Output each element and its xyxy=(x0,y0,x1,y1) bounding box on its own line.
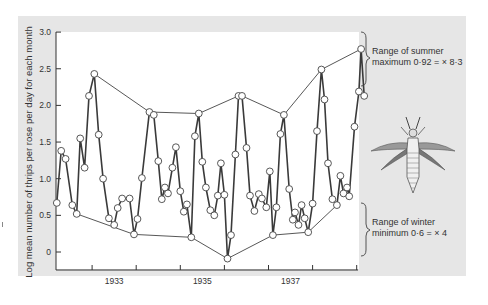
y-tick-label: 1.5 xyxy=(39,137,51,147)
data-point-marker xyxy=(139,175,146,182)
data-point-marker xyxy=(314,128,321,135)
data-point-marker xyxy=(203,184,210,191)
data-point-marker xyxy=(73,211,80,218)
data-point-marker xyxy=(91,71,98,78)
data-point-marker xyxy=(106,215,113,222)
data-point-marker xyxy=(270,232,277,239)
summer-range-annotation: Range of summer maximum 0·92 = × 8·3 xyxy=(372,46,463,68)
data-point-marker xyxy=(114,205,121,212)
data-point-marker xyxy=(158,196,165,203)
data-point-marker xyxy=(165,190,172,197)
data-point-marker xyxy=(150,112,157,119)
data-point-marker xyxy=(305,229,312,236)
data-point-marker xyxy=(346,193,353,200)
plot-area xyxy=(56,32,359,269)
data-point-marker xyxy=(286,186,293,193)
data-point-marker xyxy=(358,46,365,53)
y-tick-label: 2.5 xyxy=(39,64,51,74)
data-point-marker xyxy=(214,192,221,199)
data-point-marker xyxy=(243,145,250,152)
thrips-insect-icon xyxy=(371,117,455,193)
x-tick-label: 1933 xyxy=(105,276,124,286)
data-point-marker xyxy=(247,192,254,199)
data-point-marker xyxy=(251,208,258,215)
data-point-marker xyxy=(173,144,180,151)
data-point-marker xyxy=(169,164,176,171)
data-point-marker xyxy=(273,204,280,211)
winter-bracket-icon xyxy=(361,203,370,256)
data-point-marker xyxy=(298,202,305,209)
data-point-marker xyxy=(266,168,273,175)
data-point-marker xyxy=(292,209,299,216)
data-point-marker xyxy=(69,202,76,209)
data-point-marker xyxy=(325,160,332,167)
y-axis-label: Log mean number of thrips per rose per d… xyxy=(23,26,34,277)
y-tick-label: 1.0 xyxy=(39,174,51,184)
data-point-marker xyxy=(239,93,246,100)
x-tick-label: 1937 xyxy=(281,276,300,286)
y-tick-label: 0.5 xyxy=(39,210,51,220)
winter-annotation-line1: Range of winter xyxy=(372,217,447,228)
data-point-marker xyxy=(58,147,65,154)
data-point-marker xyxy=(111,222,118,229)
data-point-marker xyxy=(180,208,187,215)
data-point-marker xyxy=(321,96,328,103)
data-point-marker xyxy=(126,195,133,202)
data-point-marker xyxy=(228,232,235,239)
data-point-marker xyxy=(62,156,69,163)
data-point-marker xyxy=(184,201,191,208)
data-point-marker xyxy=(53,200,60,207)
data-point-marker xyxy=(199,158,206,165)
data-point-marker xyxy=(295,222,302,229)
data-point-marker xyxy=(301,215,308,222)
data-point-marker xyxy=(134,216,141,223)
x-tick-label: 1935 xyxy=(193,276,212,286)
y-tick-label: 0 xyxy=(46,247,51,257)
data-point-marker xyxy=(351,123,358,130)
data-point-marker xyxy=(177,188,184,195)
margin-mark xyxy=(2,222,3,227)
data-point-marker xyxy=(334,202,341,209)
data-point-marker xyxy=(329,196,336,203)
data-point-marker xyxy=(361,93,368,100)
data-point-marker xyxy=(337,172,344,179)
data-point-marker xyxy=(155,158,162,165)
data-point-marker xyxy=(277,131,284,138)
data-point-marker xyxy=(86,93,93,100)
winter-range-annotation: Range of winter minimum 0·6 = × 4 xyxy=(372,217,447,239)
data-point-marker xyxy=(119,195,126,202)
data-point-marker xyxy=(232,151,239,158)
data-point-marker xyxy=(218,160,225,167)
data-point-marker xyxy=(318,66,325,73)
data-point-marker xyxy=(188,234,195,241)
y-tick-label: 3.0 xyxy=(39,27,51,37)
data-point-marker xyxy=(281,112,288,119)
data-point-marker xyxy=(81,164,88,171)
data-point-marker xyxy=(192,133,199,140)
y-tick-label: 2.0 xyxy=(39,100,51,110)
winter-annotation-line2: minimum 0·6 = × 4 xyxy=(372,228,447,239)
data-point-marker xyxy=(224,255,231,262)
data-point-marker xyxy=(195,110,202,117)
data-point-marker xyxy=(131,231,138,238)
data-point-marker xyxy=(263,204,270,211)
data-point-marker xyxy=(259,195,266,202)
data-point-marker xyxy=(221,191,228,198)
data-point-marker xyxy=(309,200,316,207)
data-point-marker xyxy=(77,135,84,142)
summer-annotation-line1: Range of summer xyxy=(372,46,463,57)
data-point-marker xyxy=(211,212,218,219)
summer-annotation-line2: maximum 0·92 = × 8·3 xyxy=(372,57,463,68)
data-point-marker xyxy=(344,184,351,191)
data-point-marker xyxy=(289,216,296,223)
data-point-marker xyxy=(100,175,107,182)
data-point-marker xyxy=(95,131,102,138)
